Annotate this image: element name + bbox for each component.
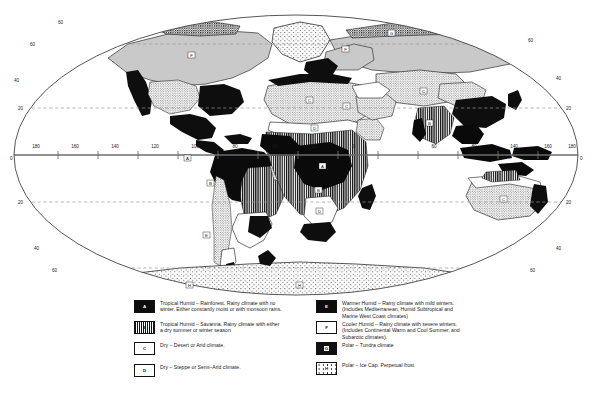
swatch-tundra-icon: G (316, 342, 337, 355)
svg-text:180: 180 (32, 144, 40, 149)
svg-text:140: 140 (510, 144, 518, 149)
svg-text:40: 40 (556, 76, 562, 81)
svg-text:A: A (321, 164, 324, 169)
svg-text:160: 160 (71, 144, 79, 149)
svg-text:40: 40 (14, 78, 20, 83)
legend-item-warmer-humid[interactable]: E Warmer Humid – Rainy climate with mild… (316, 300, 588, 319)
swatch-warmer-humid-icon: E (316, 300, 337, 313)
legend-item-steppe[interactable]: D Dry – Steppe or Semi–Arid climate. (134, 364, 312, 377)
svg-text:120: 120 (151, 144, 159, 149)
swatch-ice-cap-icon: H (316, 362, 337, 375)
legend-label-rainforest: Tropical Humid – Rainforest. Rainy clima… (160, 300, 282, 313)
svg-text:0: 0 (10, 156, 13, 161)
svg-text:C: C (502, 197, 505, 202)
legend-column-right: E Warmer Humid – Rainy climate with mild… (316, 300, 588, 375)
svg-text:F: F (344, 47, 347, 52)
legend-label-ice-cap: Polar – Ice Cap. Perpetual frost. (342, 362, 415, 368)
svg-text:80: 80 (471, 144, 477, 149)
svg-text:C: C (308, 98, 311, 103)
swatch-rainforest-icon: A (134, 300, 155, 313)
legend-item-tundra[interactable]: G Polar – Tundra climate (316, 342, 588, 355)
legend-label-steppe: Dry – Steppe or Semi–Arid climate. (160, 364, 241, 370)
svg-text:A: A (186, 156, 189, 161)
svg-text:60: 60 (272, 144, 278, 149)
svg-text:60: 60 (431, 144, 437, 149)
svg-text:100: 100 (191, 144, 199, 149)
swatch-cooler-humid-icon: F (316, 321, 337, 334)
svg-text:B: B (317, 188, 320, 193)
swatch-code-b: B (143, 325, 146, 330)
swatch-code-f: F (325, 325, 328, 330)
svg-text:B: B (209, 181, 212, 186)
legend-item-savanna[interactable]: B Tropical Humid – Savanna. Rainy climat… (134, 321, 312, 334)
svg-text:40: 40 (556, 246, 562, 251)
swatch-code-c: C (143, 346, 147, 351)
swatch-desert-icon: C (134, 342, 155, 355)
svg-text:160: 160 (544, 144, 552, 149)
svg-text:D: D (313, 126, 316, 131)
swatch-code-e: E (325, 304, 328, 309)
swatch-savanna-icon: B (134, 321, 155, 334)
svg-text:0: 0 (353, 144, 356, 149)
legend-label-desert: Dry – Desert or Arid climate. (160, 342, 225, 348)
svg-text:20: 20 (18, 200, 24, 205)
svg-text:C: C (345, 104, 348, 109)
svg-text:20: 20 (566, 200, 572, 205)
svg-text:60: 60 (58, 20, 64, 25)
svg-text:B: B (428, 121, 431, 126)
svg-text:180: 180 (568, 144, 576, 149)
map-legend: A Tropical Humid – Rainforest. Rainy cli… (0, 300, 592, 401)
legend-column-left: A Tropical Humid – Rainforest. Rainy cli… (134, 300, 312, 377)
legend-label-tundra: Polar – Tundra climate (342, 342, 394, 348)
svg-text:40: 40 (34, 246, 40, 251)
swatch-steppe-icon: D (134, 364, 155, 377)
svg-text:E: E (205, 233, 208, 238)
legend-label-savanna: Tropical Humid – Savanna. Rainy climate … (160, 321, 279, 334)
svg-text:60: 60 (52, 268, 58, 273)
svg-text:H: H (188, 283, 191, 288)
legend-item-ice-cap[interactable]: H Polar – Ice Cap. Perpetual frost. (316, 362, 588, 375)
legend-label-cooler-humid: Cooler Humid – Rainy climate with severe… (342, 321, 460, 340)
svg-text:20: 20 (311, 144, 317, 149)
svg-text:H: H (298, 283, 301, 288)
svg-text:20: 20 (18, 106, 24, 111)
svg-text:C: C (422, 89, 425, 94)
svg-text:140: 140 (111, 144, 119, 149)
svg-text:20: 20 (566, 106, 572, 111)
svg-text:0: 0 (580, 156, 583, 161)
swatch-code-h: H (325, 366, 329, 371)
legend-item-rainforest[interactable]: A Tropical Humid – Rainforest. Rainy cli… (134, 300, 312, 313)
swatch-code-d: D (143, 368, 146, 373)
swatch-code-g: G (324, 346, 328, 351)
legend-label-warmer-humid: Warmer Humid – Rainy climate with mild w… (342, 300, 454, 319)
svg-text:60: 60 (528, 38, 534, 43)
svg-text:80: 80 (232, 144, 238, 149)
svg-text:60: 60 (530, 268, 536, 273)
svg-text:F: F (190, 53, 193, 58)
legend-item-cooler-humid[interactable]: F Cooler Humid – Rainy climate with seve… (316, 321, 588, 340)
svg-text:D: D (318, 209, 321, 214)
swatch-code-a: A (143, 304, 146, 309)
svg-text:60: 60 (30, 42, 36, 47)
legend-item-desert[interactable]: C Dry – Desert or Arid climate. (134, 342, 312, 355)
